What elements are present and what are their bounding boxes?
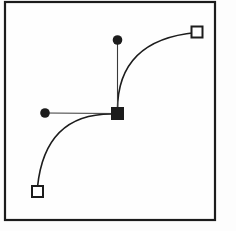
left-control-point[interactable] bbox=[40, 108, 50, 118]
top-control-point[interactable] bbox=[113, 35, 123, 45]
horizontal-handle-line bbox=[45, 113, 118, 114]
bezier-diagram bbox=[0, 0, 236, 231]
top-right-endpoint[interactable] bbox=[192, 27, 203, 38]
bottom-left-endpoint[interactable] bbox=[32, 186, 43, 197]
anchor-point[interactable] bbox=[111, 107, 124, 120]
bezier-figure bbox=[0, 0, 236, 231]
